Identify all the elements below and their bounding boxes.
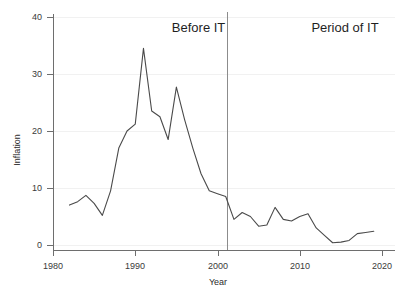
y-axis: 40 30 20 10 0 Inflation: [12, 12, 53, 250]
y-tick-label-30: 30: [32, 69, 42, 79]
chart-canvas: 40 30 20 10 0 Inflation 1980 1990 2000 2…: [0, 0, 403, 303]
x-tick-label-1990: 1990: [125, 261, 145, 271]
x-tick-label-2000: 2000: [208, 261, 228, 271]
before-it-label: Before IT: [172, 20, 226, 35]
x-tick-label-2010: 2010: [290, 261, 310, 271]
period-of-it-label: Period of IT: [311, 20, 378, 35]
x-axis-title: Year: [209, 277, 227, 287]
y-tick-label-10: 10: [32, 183, 42, 193]
inflation-chart: 40 30 20 10 0 Inflation 1980 1990 2000 2…: [0, 0, 403, 303]
y-tick-label-20: 20: [32, 126, 42, 136]
x-axis: 1980 1990 2000 2010 2020 Year: [43, 250, 395, 287]
x-tick-label-1980: 1980: [43, 261, 63, 271]
y-axis-title: Inflation: [12, 134, 22, 166]
inflation-series-line: [69, 48, 373, 242]
x-tick-label-2020: 2020: [372, 261, 392, 271]
y-tick-label-0: 0: [37, 240, 42, 250]
y-tick-label-40: 40: [32, 12, 42, 22]
